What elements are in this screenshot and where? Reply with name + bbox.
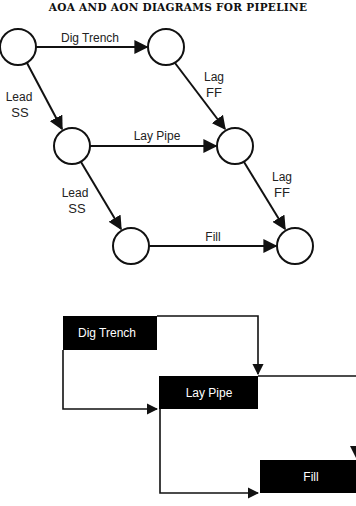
diagram-canvas: Dig Trench Lead SS Lag FF Lay Pipe Lead … [0,0,356,506]
event-node-5 [113,228,149,264]
label-ff-1: FF [206,85,222,100]
connector-dig-to-lay-ss [63,350,157,409]
label-lead-1: Lead [6,90,33,104]
event-node-1 [0,29,36,65]
label-lay-pipe: Lay Pipe [134,129,181,143]
connector-dig-to-lay-ff [157,316,258,374]
label-lag-2: Lag [272,170,292,184]
label-lead-2: Lead [62,186,89,200]
aoa-diagram: Dig Trench Lead SS Lag FF Lay Pipe Lead … [0,29,313,264]
event-node-4 [217,128,253,164]
connector-lay-to-fill-ss [160,409,258,493]
label-ss-1: SS [11,105,29,120]
event-node-3 [54,128,90,164]
label-dig-trench: Dig Trench [61,31,119,45]
label-fill: Fill [205,230,220,244]
label-ff-2: FF [274,185,290,200]
aon-diagram: Dig Trench Lay Pipe Fill [63,316,356,493]
label-lag-1: Lag [204,70,224,84]
activity-label-dig-trench: Dig Trench [78,326,136,340]
event-node-2 [148,29,184,65]
activity-label-fill: Fill [303,470,318,484]
label-ss-2: SS [68,201,86,216]
event-node-6 [277,228,313,264]
arrowhead-fill-ff [350,446,356,458]
activity-label-lay-pipe: Lay Pipe [186,386,233,400]
